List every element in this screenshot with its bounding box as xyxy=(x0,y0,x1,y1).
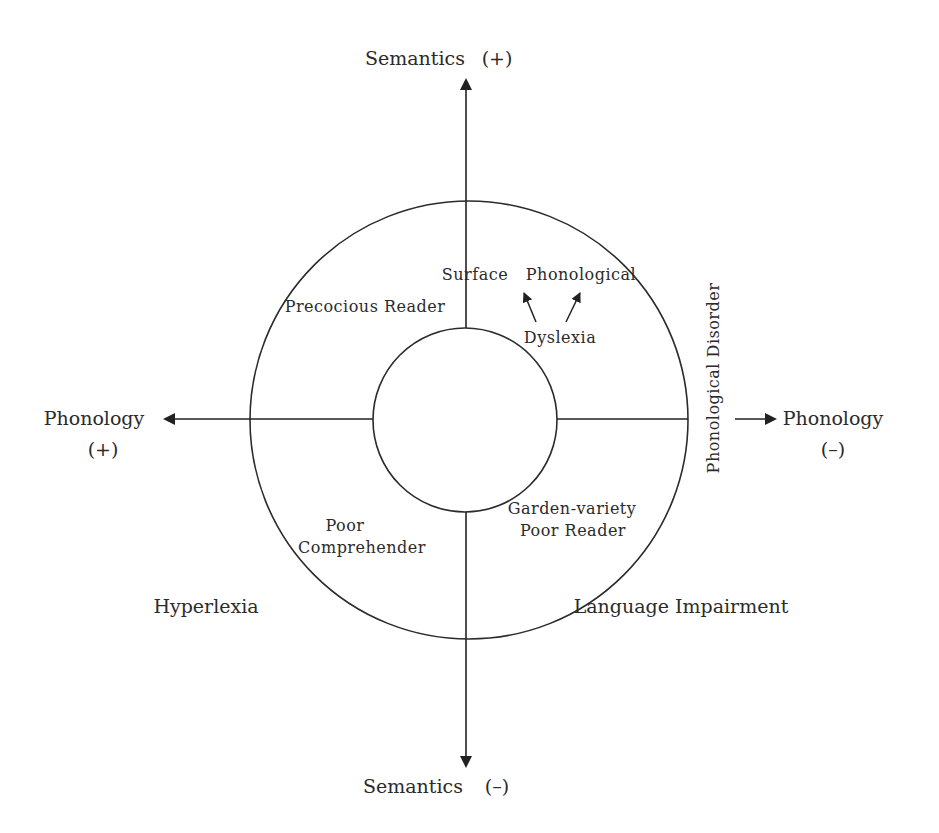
semantics-positive-label: Semantics xyxy=(365,47,465,69)
semantics-positive-sign: (+) xyxy=(482,47,513,69)
phonology-positive-sign: (+) xyxy=(88,438,119,460)
semantics-negative-label: Semantics xyxy=(363,775,463,797)
dyslexia-to-surface-arrow xyxy=(524,293,536,322)
phonological-disorder-label: Phonological Disorder xyxy=(704,283,723,474)
dyslexia-label: Dyslexia xyxy=(524,328,596,347)
phonology-negative-label: Phonology xyxy=(783,407,884,429)
inner-circle xyxy=(373,328,557,512)
garden-variety-label-line1: Garden-variety xyxy=(508,499,637,518)
semantics-negative-sign: (–) xyxy=(485,775,509,797)
dyslexia-to-phonological-arrow xyxy=(566,293,580,322)
language-impairment-label: Language Impairment xyxy=(574,595,789,617)
poor-comprehender-label-line1: Poor xyxy=(325,516,364,535)
precocious-reader-label: Precocious Reader xyxy=(285,297,446,316)
hyperlexia-label: Hyperlexia xyxy=(153,595,258,617)
reading-profile-diagram: Semantics (+) Semantics (–) Phonology (+… xyxy=(0,0,939,833)
surface-label: Surface xyxy=(442,265,508,284)
garden-variety-label-line2: Poor Reader xyxy=(520,521,626,540)
phonology-positive-label: Phonology xyxy=(44,407,145,429)
phonology-negative-sign: (–) xyxy=(821,438,845,460)
phonological-label: Phonological xyxy=(526,265,636,284)
poor-comprehender-label-line2: Comprehender xyxy=(298,538,426,557)
